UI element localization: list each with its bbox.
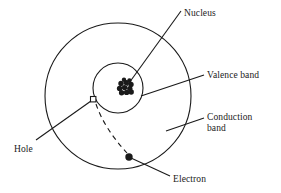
leader-line-valence-band [141,75,204,96]
atom-band-diagram: Nucleus Valence band Conduction band Hol… [0,0,281,193]
label-nucleus: Nucleus [184,8,216,19]
label-electron: Electron [173,174,206,185]
hole-marker [91,97,96,102]
electron-marker [125,153,132,160]
leader-line-nucleus [124,11,181,90]
label-valence-band: Valence band [207,70,259,81]
nucleus-cluster [117,78,134,96]
leader-line-conduction-band [166,118,204,131]
label-hole: Hole [14,144,33,155]
leader-line-hole [36,101,91,140]
diagram-canvas [0,0,281,193]
electron-transition-dashed-path [96,104,127,153]
label-conduction-band: Conduction band [207,112,252,134]
conduction-band-orbit [45,23,191,169]
